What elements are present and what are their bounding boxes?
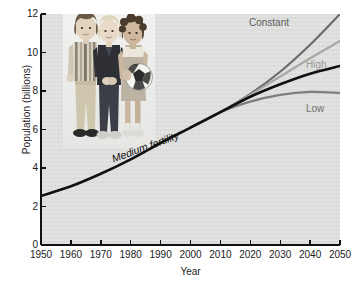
y-tick-label: 2 — [16, 202, 38, 212]
curve-label-constant: Constant — [249, 18, 289, 28]
curve-label-low: Low — [306, 104, 324, 114]
children-photo-illustration — [63, 14, 155, 148]
y-tick-label: 12 — [16, 9, 38, 19]
y-axis-tick-labels: 024681012 — [14, 0, 38, 282]
x-tick-label: 1950 — [24, 249, 58, 260]
x-tick-label: 2050 — [323, 249, 356, 260]
x-tick-label: 2040 — [293, 249, 327, 260]
x-tick-label: 2020 — [233, 249, 267, 260]
x-tick-label: 2030 — [263, 249, 297, 260]
x-tick-label: 1970 — [84, 249, 118, 260]
curve-label-high: High — [306, 60, 327, 70]
children-photo-inset — [63, 14, 155, 148]
plot-area: Constant High Low Medium fertility — [41, 14, 340, 245]
y-tick-label: 10 — [16, 48, 38, 58]
x-axis-title: Year — [41, 266, 340, 277]
x-tick-label: 1990 — [144, 249, 178, 260]
x-tick-label: 2000 — [174, 249, 208, 260]
x-tick-label: 1960 — [54, 249, 88, 260]
y-tick-label: 6 — [16, 125, 38, 135]
x-tick-label: 2010 — [203, 249, 237, 260]
y-tick-label: 8 — [16, 86, 38, 96]
y-tick-label: 4 — [16, 163, 38, 173]
x-tick-label: 1980 — [114, 249, 148, 260]
